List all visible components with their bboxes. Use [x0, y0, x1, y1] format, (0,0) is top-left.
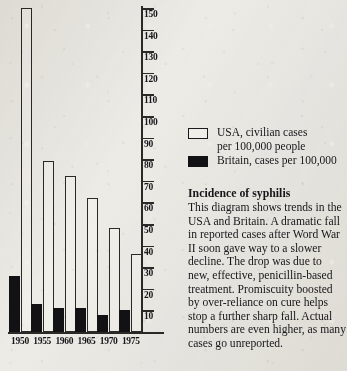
x-axis-line	[8, 332, 164, 334]
bar-chart: 102030405060708090100110120130140150 195…	[0, 0, 178, 371]
bar-usa-1950	[21, 8, 32, 332]
y-axis-line	[141, 6, 143, 332]
legend-swatch-open-icon	[188, 128, 208, 139]
y-axis: 102030405060708090100110120130140150	[141, 8, 178, 332]
plot-area	[8, 8, 141, 332]
article-heading: Incidence of syphilis	[188, 186, 346, 200]
y-tick-label-70: 70	[144, 182, 153, 192]
x-axis-labels: 195019551960196519701975	[8, 336, 168, 352]
y-tick-label-20: 20	[144, 290, 153, 300]
y-tick-label-150: 150	[144, 9, 158, 19]
y-tick-label-50: 50	[144, 225, 153, 235]
bar-britain-1965	[75, 308, 86, 332]
side-panel: USA, civilian cases per 100,000 people B…	[186, 0, 347, 371]
legend-label-usa-line1: USA, civilian cases	[217, 126, 307, 138]
y-tick-label-110: 110	[144, 95, 157, 105]
article-body: This diagram shows trends in the USA and…	[188, 201, 346, 351]
legend-swatch-solid-icon	[188, 156, 208, 167]
y-tick-label-90: 90	[144, 139, 153, 149]
legend-label-britain-line1: Britain, cases per 100,000	[217, 154, 337, 166]
article-block: Incidence of syphilis This diagram shows…	[188, 186, 346, 351]
legend-item-britain: Britain, cases per 100,000	[188, 154, 347, 168]
y-tick-label-130: 130	[144, 52, 158, 62]
legend-label-usa: USA, civilian cases per 100,000 people	[217, 126, 307, 153]
bar-britain-1970	[97, 315, 108, 332]
bar-britain-1975	[119, 310, 130, 332]
y-tick-label-80: 80	[144, 160, 153, 170]
y-tick-label-120: 120	[144, 74, 158, 84]
bar-usa-1965	[87, 198, 98, 332]
legend-label-usa-line2: per 100,000 people	[217, 140, 307, 154]
bar-britain-1960	[53, 308, 64, 332]
bar-britain-1950	[9, 276, 20, 332]
y-tick-label-10: 10	[144, 311, 153, 321]
y-tick-label-40: 40	[144, 247, 153, 257]
legend-item-usa: USA, civilian cases per 100,000 people	[188, 126, 347, 153]
bar-usa-1955	[43, 161, 54, 332]
y-tick-label-100: 100	[144, 117, 158, 127]
y-tick-label-30: 30	[144, 268, 153, 278]
y-tick-label-140: 140	[144, 31, 158, 41]
bar-britain-1955	[31, 304, 42, 332]
chart-legend: USA, civilian cases per 100,000 people B…	[188, 126, 347, 168]
x-tick-label-1975: 1975	[116, 336, 146, 346]
legend-label-britain: Britain, cases per 100,000	[217, 154, 337, 168]
y-tick-label-60: 60	[144, 203, 153, 213]
